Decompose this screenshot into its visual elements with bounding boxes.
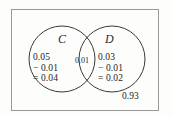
set-label-d: D — [105, 33, 114, 45]
region-value-outside: 0.93 — [122, 91, 139, 102]
d-only-line-1: 0.03 — [98, 52, 123, 63]
d-only-subtrahend: 0.01 — [106, 63, 123, 73]
region-value-d-only: 0.03 −0.01 =0.02 — [98, 52, 123, 84]
region-value-intersection: 0.01 — [71, 56, 93, 66]
d-only-line-3: =0.02 — [98, 73, 123, 84]
c-only-result: 0.04 — [41, 73, 58, 83]
d-only-result: 0.02 — [106, 73, 123, 83]
c-only-equals-operator: = — [33, 73, 41, 84]
c-only-minus-operator: − — [33, 63, 41, 74]
c-only-subtrahend: 0.01 — [41, 63, 58, 73]
c-only-line-1: 0.05 — [33, 52, 58, 63]
d-only-equals-operator: = — [98, 73, 106, 84]
c-only-line-2: −0.01 — [33, 63, 58, 74]
d-only-line-2: −0.01 — [98, 63, 123, 74]
set-label-c: C — [58, 33, 66, 45]
c-only-line-3: =0.04 — [33, 73, 58, 84]
venn-diagram-figure: C D 0.05 −0.01 =0.04 0.03 −0.01 =0.02 0.… — [0, 0, 173, 117]
region-value-c-only: 0.05 −0.01 =0.04 — [33, 52, 58, 84]
d-only-minus-operator: − — [98, 63, 106, 74]
